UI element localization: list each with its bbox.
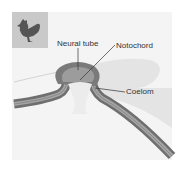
label-neural-tube: Neural tube	[57, 40, 98, 48]
embryo-cross-section-diagram	[0, 0, 183, 172]
label-coelom: Coelom	[126, 88, 154, 96]
label-notochord: Notochord	[116, 42, 153, 50]
